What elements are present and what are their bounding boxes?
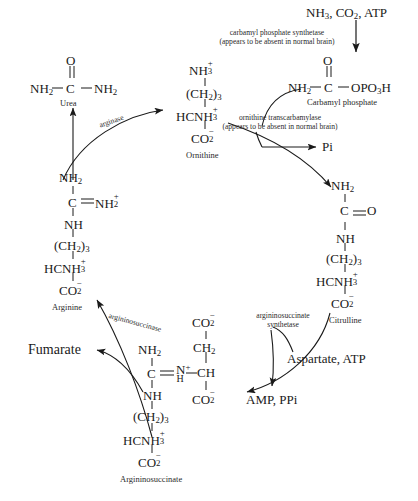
argininosuccinate-label: Argininosuccinate: [120, 474, 182, 484]
ornithine-amine: NH+3: [189, 61, 213, 79]
enzyme-carbamyl-phosphate-synthetase: carbamyl phosphate synthetase (appears t…: [212, 28, 342, 47]
substrate-aspartate-atp: Aspartate, ATP: [287, 351, 366, 367]
curve-aspartate-in: [273, 327, 293, 352]
carbamylphosphate-carbon: C: [324, 80, 333, 96]
citrulline-oxygen: O: [367, 203, 376, 219]
argininosuccinate-alpha-carbon: HCNH+3: [123, 431, 165, 449]
enzyme-ass-line2: synthetase: [240, 320, 326, 329]
enzyme-argininosuccinase: argininosuccinase: [108, 311, 163, 334]
carbamylphosphate-label: Carbamyl phosphate: [307, 97, 377, 107]
enzyme-otc-line2: (appears to be absent in normal brain): [205, 122, 355, 131]
argininosuccinate-chain: (CH2)3: [133, 409, 169, 425]
arginine-carbon: C: [68, 195, 77, 211]
arginine-carboxylate: CO−2: [59, 281, 82, 299]
curve-pi-stub: [256, 132, 262, 147]
citrulline-carboxylate: CO−2: [331, 294, 354, 312]
ornithine-chain: (CH2)3: [186, 86, 222, 102]
enzyme-arginase: arginase: [98, 113, 125, 130]
arginine-guanidinium: NH+2: [95, 194, 119, 212]
urea-carbon: C: [66, 81, 75, 97]
enzyme-otc-line1: ornithine transcarbamylase: [205, 113, 355, 122]
argininosuccinate-imino: NH: [143, 388, 162, 404]
carbamylphosphate-left-group: NH2: [288, 80, 311, 96]
enzyme-ass-line1: argininosuccinate: [240, 311, 326, 320]
urea-oxygen: O: [66, 53, 75, 69]
argininosuccinate-amine: NH2: [138, 342, 161, 358]
enzyme-cps-line1: carbamyl phosphate synthetase: [212, 28, 342, 37]
succinyl-carboxylate-bottom: CO−2: [192, 390, 215, 408]
arginine-chain: (CH2)3: [54, 238, 90, 254]
succinyl-carboxylate-top: CO−2: [192, 313, 215, 331]
citrulline-imino: NH: [336, 231, 355, 247]
arrow-amp-ppi-out: [271, 330, 273, 386]
argininosuccinate-carboxylate: CO−2: [138, 453, 161, 471]
argininosuccinate-carbon: C: [147, 366, 156, 382]
carbamylphosphate-oxygen: O: [323, 53, 332, 69]
ornithine-label: Ornithine: [186, 150, 219, 160]
citrulline-chain: (CH2)3: [326, 251, 362, 267]
urea-right-group: NH2: [94, 81, 117, 97]
enzyme-ornithine-transcarbamylase: ornithine transcarbamylase (appears to b…: [205, 113, 355, 132]
citrulline-carbon: C: [340, 203, 349, 219]
citrulline-alpha-carbon: HCNH+3: [316, 272, 358, 290]
enzyme-argininosuccinate-synthetase: argininosuccinate synthetase: [240, 311, 326, 330]
enzyme-cps-line2: (appears to be absent in normal brain): [212, 37, 342, 46]
succinyl-methine: CH: [197, 365, 215, 381]
succinyl-methylene: CH2: [193, 340, 215, 356]
product-pi: Pi: [322, 139, 333, 155]
citrulline-amine: NH2: [331, 178, 354, 194]
substrate-nh3-co2-atp: NH3, CO2, ATP: [306, 5, 387, 21]
product-amp-ppi: AMP, PPi: [246, 392, 297, 408]
argininosuccinate-iminium: N+ H: [176, 364, 190, 388]
arginine-label: Arginine: [52, 302, 82, 312]
product-fumarate: Fumarate: [28, 342, 81, 358]
arginine-amine: NH2: [59, 170, 82, 186]
urea-cycle-diagram: NH2 C NH2 O Urea NH+3 (CH2)3 HCNH+3 CO−2…: [0, 0, 418, 501]
arginine-imino: NH: [64, 217, 83, 233]
arginine-alpha-carbon: HCNH+3: [44, 259, 86, 277]
arc-ornithine-to-citrulline: [228, 123, 331, 187]
carbamylphosphate-right-group: OPO3H: [351, 80, 391, 96]
urea-left-group: NH2: [30, 81, 53, 97]
citrulline-label: Citrulline: [329, 315, 362, 325]
urea-label: Urea: [60, 98, 77, 108]
arrow-fumarate-out: [97, 350, 143, 392]
